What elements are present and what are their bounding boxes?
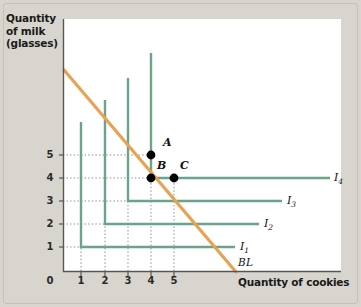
y-tick-label-4: 4 — [43, 172, 57, 183]
y-tick-label-1: 1 — [43, 241, 57, 252]
point-B — [147, 174, 156, 183]
y-tick-label-3: 3 — [43, 195, 57, 206]
point-label-B: B — [157, 159, 166, 172]
x-tick-label-4: 4 — [144, 275, 158, 286]
guide-lines — [63, 155, 174, 271]
curve-label-I4-sub: 4 — [338, 177, 343, 186]
y-axis-title: Quantity of milk (glasses) — [6, 12, 64, 50]
curve-label-I3-sub: 3 — [291, 200, 296, 209]
curve-label-I2-sub: 2 — [268, 223, 273, 232]
point-A — [147, 151, 156, 160]
x-tick-label-5: 5 — [167, 275, 181, 286]
point-label-C: C — [180, 159, 189, 172]
x-axis-title: Quantity of cookies — [238, 276, 349, 289]
y-tick-label-5: 5 — [43, 149, 57, 160]
curve-label-I3: I3 — [287, 194, 296, 209]
figure-container: Quantity of milk (glasses) Quantity of c… — [0, 0, 361, 307]
curve-label-I4: I4 — [334, 171, 343, 186]
x-tick-label-3: 3 — [121, 275, 135, 286]
x-tick-label-1: 1 — [74, 275, 88, 286]
point-label-A: A — [163, 136, 172, 149]
point-C — [170, 174, 179, 183]
y-axis-title-line-1: Quantity — [6, 12, 64, 25]
y-axis-title-line-3: (glasses) — [6, 37, 64, 50]
origin-label: 0 — [43, 275, 57, 286]
indifference-curve-I4 — [151, 53, 330, 178]
curve-label-I1: I1 — [240, 240, 249, 255]
y-axis-title-line-2: of milk — [6, 25, 64, 38]
curve-label-I2: I2 — [264, 217, 273, 232]
y-tick-label-2: 2 — [43, 218, 57, 229]
curve-label-BL: BL — [238, 256, 253, 268]
curve-label-I1-sub: 1 — [244, 246, 249, 255]
x-tick-label-2: 2 — [98, 275, 112, 286]
tick-marks — [59, 155, 174, 276]
indifference-curves — [81, 53, 330, 247]
